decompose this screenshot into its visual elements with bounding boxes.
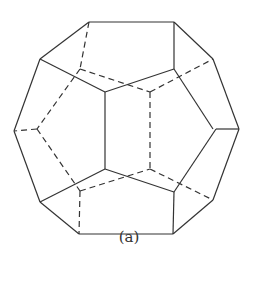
visible-edge [174,22,213,59]
hidden-edge [37,129,80,191]
hidden-edge [37,69,80,129]
hidden-edge [14,129,37,131]
visible-edge [174,69,213,129]
visible-edge [40,22,89,59]
visible-edge [213,129,239,200]
visible-edge [174,129,216,192]
hidden-edge [150,169,213,200]
visible-edge [40,59,105,92]
hidden-edge [80,22,89,69]
visible-edge [40,169,105,202]
visible-edge [213,59,239,129]
visible-edge [14,131,40,202]
figure-caption: (a) [0,228,258,246]
hidden-edge [150,59,213,92]
visible-edge [14,59,40,131]
